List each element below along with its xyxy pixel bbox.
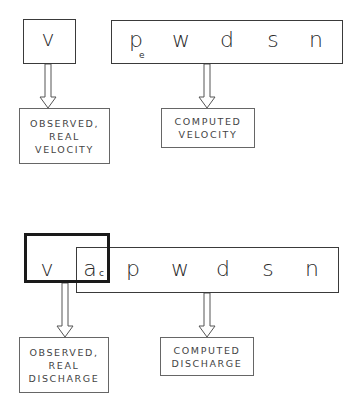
observed-real-velocity-label: OBSERVED, REAL VELOCITY xyxy=(19,108,110,164)
var-n-top: n xyxy=(309,29,323,51)
var-p-subscript-e: e xyxy=(139,50,145,60)
computed-discharge-label: COMPUTED DISCHARGE xyxy=(160,337,254,376)
var-w-bottom: w xyxy=(171,258,189,280)
var-s-top: s xyxy=(267,29,278,51)
arrow-computed-velocity xyxy=(199,64,215,108)
arrow-observed-discharge xyxy=(57,283,73,337)
var-p-bottom: p xyxy=(126,258,140,280)
observed-discharge-box xyxy=(24,233,110,283)
var-n-bottom: n xyxy=(305,258,319,280)
var-v-bottom: v xyxy=(40,258,53,280)
var-s-bottom: s xyxy=(262,258,273,280)
computed-velocity-label: COMPUTED VELOCITY xyxy=(161,108,255,148)
observed-real-discharge-label: OBSERVED, REAL DISCHARGE xyxy=(19,337,109,393)
var-d-bottom: d xyxy=(216,258,230,280)
var-a-bottom: a xyxy=(83,258,96,280)
computed-discharge-params-box xyxy=(76,247,339,293)
arrow-observed-velocity xyxy=(40,64,56,108)
var-d-top: d xyxy=(220,29,234,51)
var-a-subscript-c: c xyxy=(99,268,104,278)
var-w-top: w xyxy=(172,29,190,51)
var-v-top: v xyxy=(41,28,54,50)
var-p-top: p xyxy=(129,29,143,51)
arrow-computed-discharge xyxy=(199,293,215,337)
